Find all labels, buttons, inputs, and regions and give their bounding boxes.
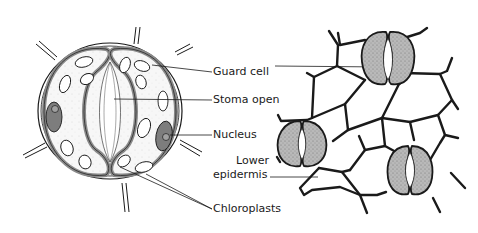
label-guard-cell: Guard cell — [213, 65, 269, 78]
epidermis-stoma-top — [362, 32, 415, 84]
epidermis-stoma-left — [278, 121, 327, 166]
label-stoma-open: Stoma open — [213, 93, 279, 106]
label-lower-line2: epidermis — [213, 168, 268, 181]
nucleus-left — [46, 102, 62, 132]
label-chloroplasts: Chloroplasts — [213, 202, 281, 215]
epidermis-stoma-bottom — [388, 146, 433, 194]
label-lower-line1: Lower — [236, 154, 269, 167]
stoma-detail-panel — [23, 27, 202, 212]
stomata-diagram: Guard cell Stoma open Nucleus Lower epid… — [0, 0, 478, 233]
label-nucleus: Nucleus — [213, 128, 257, 141]
